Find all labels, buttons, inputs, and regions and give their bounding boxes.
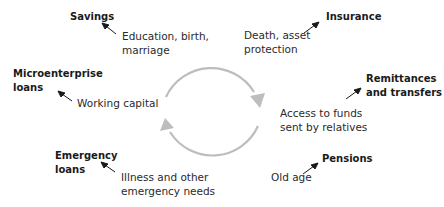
need-line: Access to funds <box>280 106 367 120</box>
arrow-icon <box>311 163 318 169</box>
arrow-icon <box>354 88 361 94</box>
need-line: sent by relatives <box>280 120 367 134</box>
need-line: Illness and other <box>121 170 215 184</box>
product-name: and transfers <box>366 86 442 100</box>
product-name: loans <box>13 81 103 95</box>
need-insurance: Death, asset protection <box>244 28 310 56</box>
product-microenterprise-loans: Microenterprise loans <box>13 67 103 95</box>
cycle-arrows <box>166 68 258 155</box>
product-name: Microenterprise <box>13 67 103 81</box>
product-name: Insurance <box>326 10 381 24</box>
cycle-arrowhead-right-icon <box>250 93 265 108</box>
product-emergency-loans: Emergency loans <box>55 149 117 177</box>
need-line: marriage <box>122 43 209 57</box>
need-savings: Education, birth, marriage <box>122 29 209 57</box>
cycle-arrowhead-left-icon <box>160 118 174 131</box>
need-line: protection <box>244 42 310 56</box>
need-emergency: Illness and other emergency needs <box>121 170 215 198</box>
product-name: Savings <box>70 10 114 24</box>
product-insurance: Insurance <box>326 10 381 24</box>
need-pensions: Old age <box>271 170 312 184</box>
product-name: loans <box>55 163 117 177</box>
need-line: Death, asset <box>244 28 310 42</box>
product-pensions: Pensions <box>322 152 373 166</box>
need-remittances: Access to funds sent by relatives <box>280 106 367 134</box>
cycle-arc-top <box>166 68 254 97</box>
product-savings: Savings <box>70 10 114 24</box>
product-remittances: Remittances and transfers <box>366 72 442 100</box>
need-line: Working capital <box>77 96 158 110</box>
need-microenterprise: Working capital <box>77 96 158 110</box>
product-name: Pensions <box>322 152 373 166</box>
need-line: emergency needs <box>121 184 215 198</box>
product-name: Emergency <box>55 149 117 163</box>
need-line: Education, birth, <box>122 29 209 43</box>
arrow-icon <box>312 22 319 28</box>
cycle-arc-bottom <box>170 126 258 155</box>
need-line: Old age <box>271 170 312 184</box>
product-name: Remittances <box>366 72 442 86</box>
